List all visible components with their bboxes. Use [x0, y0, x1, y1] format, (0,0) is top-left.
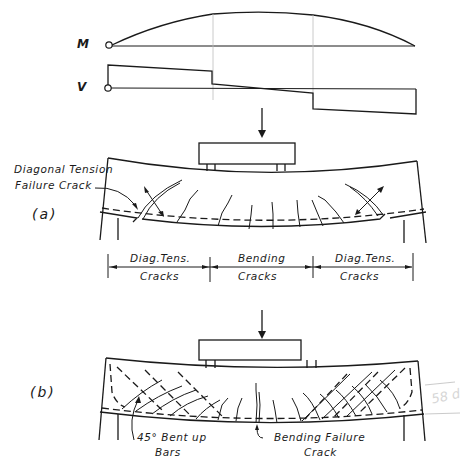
zone-left-line1: Diag.Tens.: [130, 252, 190, 264]
zone-middle-line2: Cracks: [238, 270, 277, 282]
moment-label: M: [77, 37, 89, 51]
beam-cracking-diagram: M V: [0, 0, 472, 464]
zone-right-line1: Diag.Tens.: [335, 252, 395, 264]
annotation-bending-failure-line2: Crack: [304, 446, 337, 458]
annotation-bent-up-bars-line1: 45° Bent up: [137, 431, 207, 443]
case-b-label: (b): [30, 384, 56, 400]
load-arrow-icon: [258, 130, 266, 138]
annotation-diag-tension-line2: Failure Crack: [15, 179, 92, 191]
beam-b: [99, 310, 460, 441]
annotation-bent-up-bars-line2: Bars: [155, 446, 181, 458]
load-arrow-icon: [258, 331, 266, 339]
annotation-diag-tension-line1: Diagonal Tension: [14, 163, 113, 175]
shear-label: V: [77, 80, 88, 94]
annotation-bending-failure-line1: Bending Failure: [274, 431, 365, 443]
support-pin-icon: [106, 42, 112, 48]
case-a-label: (a): [32, 206, 58, 222]
zone-left-line2: Cracks: [140, 270, 179, 282]
zone-right-line2: Cracks: [340, 270, 379, 282]
shear-diagram: V: [77, 65, 416, 114]
zone-middle-line1: Bending: [238, 252, 285, 264]
beam-a: [95, 108, 426, 243]
margin-note: 58 d: [430, 386, 462, 407]
support-pin-icon: [105, 85, 111, 91]
